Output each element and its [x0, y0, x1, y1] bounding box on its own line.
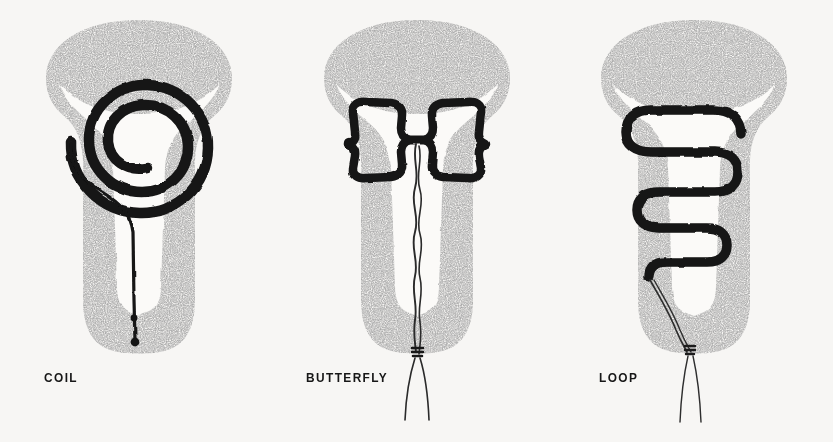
illustration-plate: COIL [0, 0, 833, 442]
figure-panel-loop: LOOP [555, 0, 833, 442]
figure-panel-butterfly: BUTTERFLY [278, 0, 556, 442]
figure-panel-coil: COIL [0, 0, 278, 442]
figure-caption-loop: LOOP [599, 370, 638, 385]
figure-caption-coil: COIL [44, 370, 78, 385]
coil-figure-svg [0, 0, 278, 442]
string-marker-lower [131, 338, 140, 347]
loop-figure-svg [555, 0, 833, 442]
figure-caption-butterfly: BUTTERFLY [306, 370, 388, 385]
string-marker-upper [131, 315, 138, 322]
butterfly-iud-knob [344, 138, 354, 148]
